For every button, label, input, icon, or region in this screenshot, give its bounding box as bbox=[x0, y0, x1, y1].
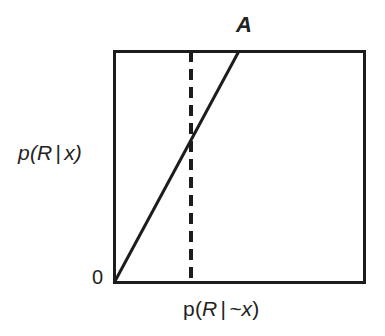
y-axis-label-close: ) bbox=[75, 141, 82, 164]
roc-figure: p(R|x) p(R|~x) 0 A bbox=[0, 0, 385, 336]
y-axis-label: p(R|x) bbox=[18, 141, 82, 165]
y-axis-label-x: x bbox=[64, 141, 75, 164]
x-axis-label-x: ~x bbox=[229, 297, 252, 320]
curve-label-a: A bbox=[236, 12, 252, 38]
x-axis-label-close: ) bbox=[252, 297, 259, 320]
x-axis-label-r: R bbox=[202, 297, 217, 320]
plot-frame bbox=[115, 52, 365, 283]
x-axis-label-open: ( bbox=[195, 297, 202, 320]
y-axis-label-r: R bbox=[37, 141, 52, 164]
x-axis-label-p: p bbox=[183, 297, 195, 320]
x-axis-label: p(R|~x) bbox=[183, 297, 260, 321]
origin-tick-label: 0 bbox=[92, 266, 103, 289]
y-axis-label-p: p bbox=[18, 141, 30, 164]
y-axis-label-bar: | bbox=[52, 141, 64, 165]
plot-canvas bbox=[0, 0, 385, 336]
x-axis-label-bar: | bbox=[217, 297, 229, 321]
y-axis-label-open: ( bbox=[30, 141, 37, 164]
